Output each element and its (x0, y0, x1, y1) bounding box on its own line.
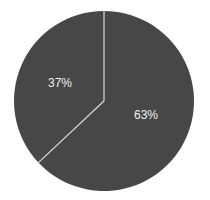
pie-chart-svg: 37% 63% (0, 0, 210, 200)
slice-label-63: 63% (134, 108, 158, 122)
slice-label-37: 37% (48, 76, 72, 90)
